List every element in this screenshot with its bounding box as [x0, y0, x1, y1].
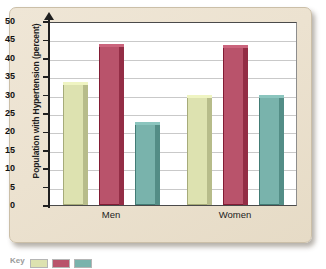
bar-top-face: [259, 95, 284, 98]
bar-side-face: [83, 82, 88, 205]
y-axis-tick: [43, 21, 49, 23]
chart-figure-panel: Population with Hypertension (percent) 0…: [9, 7, 312, 243]
y-axis-tick-label: 0: [0, 201, 15, 210]
bar: [223, 45, 248, 205]
bar-top-face: [223, 45, 248, 48]
gridline: [49, 60, 296, 61]
bar-top-face: [135, 122, 160, 125]
y-axis-tick: [43, 205, 49, 207]
y-axis-tick: [43, 95, 49, 97]
legend-swatch: [52, 259, 70, 268]
bar: [99, 44, 124, 205]
legend-key-label: Key: [10, 256, 25, 268]
y-axis-tick-label: 5: [0, 183, 15, 192]
plot-area: [49, 22, 297, 206]
gridline: [49, 78, 296, 79]
y-axis-tick-label: 30: [0, 91, 15, 100]
bar: [187, 95, 212, 205]
x-axis-category-label: Women: [173, 209, 297, 220]
bar: [63, 82, 88, 205]
bar-side-face: [119, 44, 124, 205]
bar-top-face: [187, 95, 212, 98]
y-axis-arrow-icon: [44, 12, 54, 20]
y-axis-title: Population with Hypertension (percent): [31, 11, 41, 191]
bar: [135, 122, 160, 205]
y-axis-tick-label: 10: [0, 164, 15, 173]
y-axis-tick: [43, 58, 49, 60]
y-axis-tick-label: 45: [0, 35, 15, 44]
y-axis-tick: [43, 132, 49, 134]
bar-side-face: [207, 95, 212, 205]
bar-side-face: [243, 45, 248, 205]
y-axis-tick: [43, 40, 49, 42]
bar-side-face: [155, 122, 160, 205]
y-axis-tick-label: 50: [0, 17, 15, 26]
bar-top-face: [99, 44, 124, 47]
y-axis-tick: [43, 187, 49, 189]
bar-top-face: [63, 82, 88, 85]
y-axis-tick: [43, 168, 49, 170]
legend-swatch: [30, 259, 48, 268]
y-axis-tick-label: 20: [0, 127, 15, 136]
y-axis-tick: [43, 150, 49, 152]
y-axis-tick-label: 35: [0, 72, 15, 81]
x-axis-category-label: Men: [49, 209, 173, 220]
bar-side-face: [279, 95, 284, 205]
legend-swatches: [30, 259, 92, 268]
gridline: [49, 41, 296, 42]
y-axis-tick: [43, 76, 49, 78]
y-axis-tick-label: 15: [0, 146, 15, 155]
y-axis-tick-label: 40: [0, 54, 15, 63]
bar: [259, 95, 284, 205]
y-axis-tick: [43, 113, 49, 115]
legend-swatch: [74, 259, 92, 268]
y-axis-tick-label: 25: [0, 109, 15, 118]
